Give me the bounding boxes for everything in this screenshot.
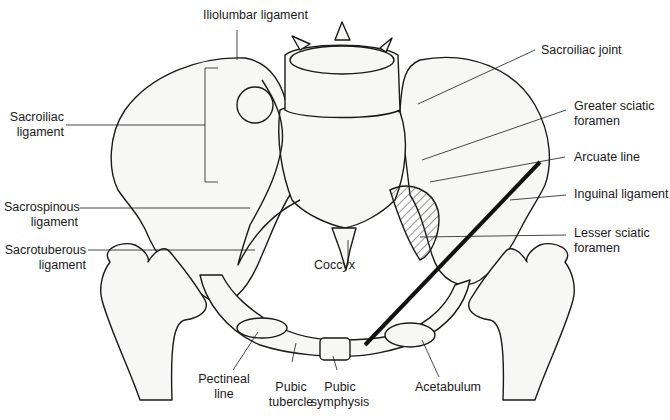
- label-pubic-tubercle: Pubic tubercle: [266, 380, 316, 410]
- label-text: Sacroiliac: [4, 110, 64, 125]
- pectineal-shape: [237, 318, 287, 338]
- label-acetabulum: Acetabulum: [415, 380, 481, 395]
- label-text: ligament: [4, 215, 78, 230]
- label-text: Pubic: [266, 380, 316, 395]
- label-text: Greater sciatic: [574, 99, 655, 114]
- label-text: foramen: [574, 241, 650, 256]
- left-foramen-ring: [237, 87, 273, 123]
- label-text: foramen: [574, 114, 655, 129]
- label-text: Lesser sciatic: [574, 226, 650, 241]
- label-text: Sacrospinous: [4, 200, 78, 215]
- label-text: Coccyx: [314, 258, 355, 273]
- label-inguinal-ligament: Inguinal ligament: [574, 187, 669, 202]
- label-text: Sacroiliac joint: [541, 43, 622, 58]
- label-text: ligament: [4, 258, 86, 273]
- label-text: Sacrotuberous: [4, 243, 86, 258]
- label-text: symphysis: [310, 395, 370, 410]
- label-text: Pectineal: [196, 372, 252, 387]
- label-text: Pubic: [310, 380, 370, 395]
- label-coccyx: Coccyx: [314, 258, 355, 273]
- label-text: Acetabulum: [415, 380, 481, 395]
- label-greater-sciatic-foramen: Greater sciatic foramen: [574, 99, 655, 129]
- pelvis-diagram: Iliolumbar ligament Sacroiliac ligament …: [0, 0, 670, 420]
- pelvis-illustration: [0, 0, 670, 420]
- label-lesser-sciatic-foramen: Lesser sciatic foramen: [574, 226, 650, 256]
- vertebral-disc-top: [290, 46, 394, 74]
- label-pectineal-line: Pectineal line: [196, 372, 252, 402]
- label-text: tubercle: [266, 395, 316, 410]
- label-sacroiliac-ligament: Sacroiliac ligament: [4, 110, 64, 140]
- label-text: line: [196, 387, 252, 402]
- label-pubic-symphysis: Pubic symphysis: [310, 380, 370, 410]
- label-iliolumbar-ligament: Iliolumbar ligament: [203, 8, 308, 23]
- label-arcuate-line: Arcuate line: [574, 150, 640, 165]
- sacrum: [279, 103, 406, 228]
- label-text: ligament: [4, 125, 64, 140]
- label-sacrospinous-ligament: Sacrospinous ligament: [4, 200, 78, 230]
- label-text: Arcuate line: [574, 150, 640, 165]
- pubic-symphysis-shape: [320, 338, 350, 360]
- label-sacroiliac-joint: Sacroiliac joint: [541, 43, 622, 58]
- greater-sciatic-foramen-shape: [390, 186, 439, 260]
- label-text: Iliolumbar ligament: [203, 8, 308, 23]
- label-sacrotuberous-ligament: Sacrotuberous ligament: [4, 243, 86, 273]
- acetabulum-shape: [385, 323, 435, 347]
- label-text: Inguinal ligament: [574, 187, 669, 202]
